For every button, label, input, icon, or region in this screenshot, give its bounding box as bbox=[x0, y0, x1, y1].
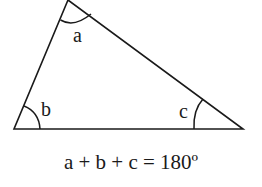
angle-c-label: c bbox=[179, 101, 188, 121]
angle-sum-equation: a + b + c = 180º bbox=[0, 152, 262, 173]
angle-c-arc bbox=[194, 99, 203, 129]
angle-b-arc bbox=[24, 106, 40, 129]
angle-b-label: b bbox=[41, 99, 51, 119]
angle-a-arc bbox=[61, 14, 92, 23]
angle-a-label: a bbox=[73, 25, 82, 45]
